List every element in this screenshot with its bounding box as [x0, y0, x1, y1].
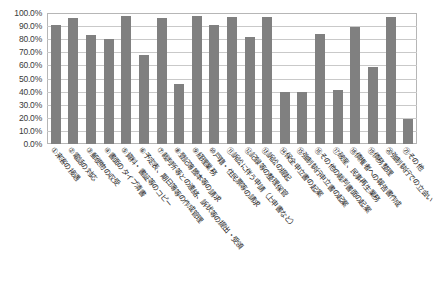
bar	[245, 37, 255, 144]
bar	[51, 25, 61, 144]
y-tick-label: 80.0%	[19, 35, 42, 44]
y-tick-label: 20.0%	[19, 114, 42, 123]
bar	[121, 16, 131, 144]
bar	[227, 17, 237, 144]
bar	[192, 16, 202, 144]
bar	[262, 17, 272, 144]
bar	[315, 34, 325, 144]
y-tick-label: 90.0%	[19, 22, 42, 31]
bar	[209, 25, 219, 144]
bar-series	[47, 13, 417, 144]
y-tick-label: 10.0%	[19, 127, 42, 136]
y-tick-label: 60.0%	[19, 61, 42, 70]
bar	[174, 84, 184, 144]
y-tick-label: 40.0%	[19, 87, 42, 96]
bar	[104, 39, 114, 144]
y-tick-label: 100.0%	[14, 9, 42, 18]
bar	[280, 92, 290, 144]
bar	[386, 17, 396, 144]
y-tick-label: 50.0%	[19, 74, 42, 83]
bar	[368, 67, 378, 144]
bar	[86, 35, 96, 144]
y-axis-labels: 100.0%90.0%80.0%70.0%60.0%50.0%40.0%30.0…	[0, 0, 45, 158]
bar	[350, 27, 360, 144]
y-tick-label: 70.0%	[19, 48, 42, 57]
bar	[297, 92, 307, 144]
y-tick-label: 0.0%	[23, 140, 42, 149]
bar	[68, 18, 78, 144]
plot-area	[47, 13, 417, 144]
x-axis-labels: ①来客の接遇②電話の対応③郵便物の収受④書面のタイプ清書⑤資料・書証等のコピー⑥…	[47, 144, 422, 300]
bar	[157, 18, 167, 144]
y-tick-label: 30.0%	[19, 100, 42, 109]
bar	[403, 119, 413, 144]
bar	[139, 55, 149, 144]
bar	[333, 90, 343, 144]
